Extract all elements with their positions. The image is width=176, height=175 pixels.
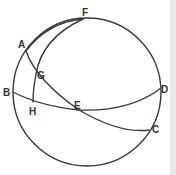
arc-a-g-e-c (26, 51, 149, 131)
label-g: G (37, 70, 45, 81)
page-edge-shadow (170, 0, 176, 175)
label-h: H (29, 106, 36, 117)
label-f: F (82, 7, 88, 18)
label-e: E (74, 100, 81, 111)
label-a: A (18, 39, 25, 50)
label-c: C (152, 124, 159, 135)
label-d: D (161, 84, 168, 95)
sphere-diagram: F A G B H E D C (0, 0, 176, 175)
arc-f-g-h (33, 19, 83, 102)
label-b: B (3, 87, 10, 98)
